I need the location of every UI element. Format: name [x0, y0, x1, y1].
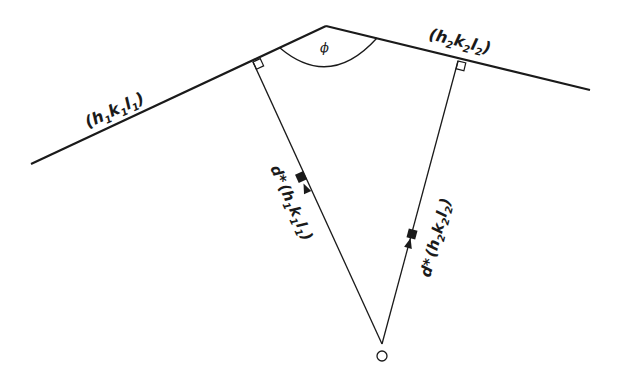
- lattice-point-marker-left: [295, 171, 307, 183]
- origin-point-icon: [377, 351, 387, 361]
- right-angle-mark-right: [456, 61, 466, 71]
- plane-trace-h1k1l1: [31, 26, 326, 164]
- plane-label-h2k2l2: (h2k2l2): [427, 24, 493, 59]
- vector-d-star-h1k1l1: [253, 62, 382, 344]
- arrowhead-right-icon: [404, 237, 414, 249]
- vector-label-d-star-h2k2l2: d*(h2k2l2): [416, 196, 456, 279]
- lattice-point-marker-right: [406, 228, 417, 239]
- angle-label-phi: ϕ: [320, 40, 329, 55]
- vector-label-d-star-h1k1l1: d*(h1k1l1): [265, 162, 317, 244]
- reciprocal-lattice-diagram: ϕ (h1k1l1) (h2k2l2) d*(h1k1l1) d*(h2k2l2…: [0, 0, 618, 382]
- arrowhead-left-icon: [300, 182, 311, 194]
- plane-label-h1k1l1: (h1k1l1): [82, 88, 148, 133]
